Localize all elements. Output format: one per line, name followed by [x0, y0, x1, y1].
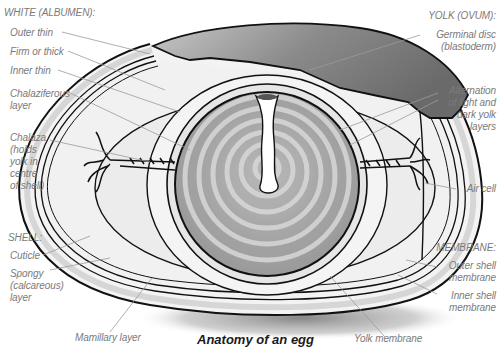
label-firm-or-thick: Firm or thick	[10, 46, 64, 58]
label-inner-shell-membrane: Inner shell membrane	[449, 290, 496, 314]
label-outer-thin: Outer thin	[10, 27, 53, 39]
label-outer-shell-membrane: Outer shell membrane	[449, 260, 496, 284]
label-spongy-layer: Spongy (calcareous) layer	[10, 268, 64, 304]
germinal-disc	[257, 94, 277, 100]
label-chalaziferous-layer: Chalaziferous layer	[10, 88, 70, 112]
label-yolk-layers: Alternation of light and dark yolk layer…	[448, 85, 496, 133]
label-cuticle: Cuticle	[10, 250, 40, 262]
label-yolk-heading: YOLK (OVUM):	[428, 10, 496, 22]
label-inner-thin: Inner thin	[10, 65, 51, 77]
label-air-cell: Air cell	[467, 183, 496, 195]
label-yolk-membrane: Yolk membrane	[354, 333, 422, 345]
label-germinal-disc: Germinal disc (blastoderm)	[436, 29, 496, 53]
label-membrane-heading: MEMBRANE:	[436, 242, 496, 254]
label-chalaza: Chalaza (holds yolk in centre of shell)	[10, 132, 46, 192]
egg-anatomy-diagram	[0, 0, 502, 353]
label-white-heading: WHITE (ALBUMEN):	[4, 7, 95, 19]
diagram-title: Anatomy of an egg	[197, 332, 314, 347]
label-shell-heading: SHELL:	[8, 232, 42, 244]
label-mamillary-layer: Mamillary layer	[75, 332, 141, 344]
